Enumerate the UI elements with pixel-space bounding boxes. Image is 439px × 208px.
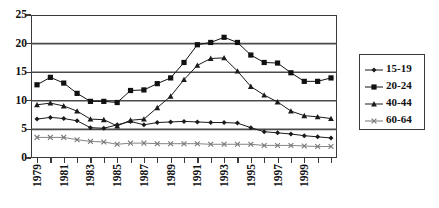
x-tick-mark (304, 158, 305, 163)
y-tick-mark (26, 43, 31, 44)
data-point-diamond (235, 121, 240, 126)
data-point-square (262, 60, 267, 65)
x-tick-label: 1991 (191, 164, 203, 187)
legend-item[interactable]: 40-44 (360, 93, 424, 110)
x-tick-mark (77, 158, 78, 163)
data-point-diamond (195, 119, 200, 124)
line-chart: 0510152025 19791981198319851987198919911… (0, 0, 439, 208)
x-tick-label: 1981 (58, 164, 70, 187)
legend-marker-square-icon (364, 79, 384, 91)
x-tick-mark (157, 158, 158, 163)
series-line-40-44 (37, 58, 331, 126)
y-tick-mark (26, 129, 31, 130)
data-point-triangle (288, 108, 294, 113)
data-point-square (235, 40, 240, 45)
y-tick-mark (26, 72, 31, 73)
data-point-diamond (182, 119, 187, 124)
legend-item[interactable]: 15-19 (360, 59, 424, 76)
y-tick-label: 20 (3, 38, 27, 49)
x-tick-mark (264, 158, 265, 163)
series-line-20-24 (37, 37, 331, 102)
data-point-square (315, 79, 320, 84)
x-tick-mark (291, 158, 292, 163)
chart-legend: 15-19 20-24 40-44 60-64 (359, 54, 425, 130)
legend-item[interactable]: 60-64 (360, 110, 424, 127)
x-tick-mark (37, 158, 38, 163)
data-point-square (168, 75, 173, 80)
data-point-triangle (275, 99, 281, 104)
legend-item-label: 20-24 (386, 79, 412, 91)
x-axis-labels: 1979198119831985198719891991199319951997… (31, 164, 337, 208)
data-point-square (88, 99, 93, 104)
data-point-square (248, 52, 253, 57)
legend-item-label: 40-44 (386, 96, 412, 108)
legend-item[interactable]: 20-24 (360, 76, 424, 93)
data-point-diamond (315, 134, 320, 139)
x-tick-mark (144, 158, 145, 163)
y-tick-label: 10 (3, 95, 27, 106)
data-point-square (208, 40, 213, 45)
y-tick-label: 5 (3, 123, 27, 134)
data-point-diamond (168, 119, 173, 124)
data-point-diamond (75, 118, 80, 123)
data-point-diamond (222, 120, 227, 125)
data-point-square (74, 91, 79, 96)
data-point-triangle (74, 108, 80, 113)
data-point-diamond (302, 133, 307, 138)
data-point-diamond (329, 135, 334, 140)
x-tick-mark (64, 158, 65, 163)
data-point-square (101, 99, 106, 104)
y-tick-mark (26, 157, 31, 158)
data-point-square (275, 60, 280, 65)
series-line-60-64 (37, 137, 331, 146)
data-point-square (115, 100, 120, 105)
data-point-diamond (48, 115, 53, 120)
x-tick-mark (104, 158, 105, 163)
legend-item-label: 15-19 (386, 62, 412, 74)
data-point-square (141, 87, 146, 92)
x-tick-mark (237, 158, 238, 163)
data-point-square (328, 75, 333, 80)
x-tick-label: 1993 (218, 164, 230, 187)
data-point-square (181, 60, 186, 65)
data-point-square (48, 75, 53, 80)
data-point-diamond (275, 130, 280, 135)
x-tick-mark (90, 158, 91, 163)
x-tick-label: 1985 (111, 164, 123, 187)
data-point-square (128, 88, 133, 93)
x-tick-mark (211, 158, 212, 163)
data-point-square (288, 70, 293, 75)
y-tick-label: 0 (3, 152, 27, 163)
data-point-triangle (194, 62, 200, 67)
data-point-diamond (288, 131, 293, 136)
x-tick-mark (331, 158, 332, 163)
data-point-square (34, 82, 39, 87)
x-tick-mark (318, 158, 319, 163)
x-tick-label: 1997 (272, 164, 284, 187)
data-point-square (302, 79, 307, 84)
legend-marker-triangle-icon (364, 96, 384, 108)
plot-canvas (31, 15, 337, 158)
x-tick-label: 1979 (31, 164, 43, 187)
data-point-diamond (35, 117, 40, 122)
legend-marker-diamond-icon (364, 62, 384, 74)
y-tick-label: 15 (3, 66, 27, 77)
x-tick-label: 1989 (165, 164, 177, 187)
data-point-diamond (155, 120, 160, 125)
x-tick-mark (50, 158, 51, 163)
data-point-square (221, 35, 226, 40)
x-tick-label: 1999 (298, 164, 310, 187)
x-tick-label: 1995 (245, 164, 257, 187)
x-tick-mark (197, 158, 198, 163)
x-tick-label: 1983 (84, 164, 96, 187)
data-point-diamond (208, 120, 213, 125)
y-tick-label: 25 (3, 9, 27, 20)
y-axis: 0510152025 (0, 0, 27, 208)
data-point-diamond (61, 116, 66, 121)
x-tick-mark (184, 158, 185, 163)
y-tick-mark (26, 100, 31, 101)
x-tick-mark (131, 158, 132, 163)
data-point-triangle (261, 92, 267, 97)
x-tick-mark (117, 158, 118, 163)
data-point-square (155, 81, 160, 86)
